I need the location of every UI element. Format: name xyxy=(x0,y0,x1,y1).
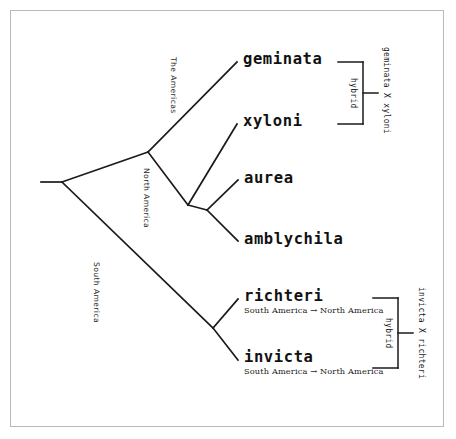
taxon-sublabel-richteri: South America → North America xyxy=(244,306,384,315)
hybrid-cross-label-invicta-richteri: invicta X richteri xyxy=(417,287,426,379)
taxon-label-aurea: aurea xyxy=(244,170,294,186)
hybrid-bracket-geminata-xyloni xyxy=(338,62,378,124)
taxon-sublabel-invicta: South America → North America xyxy=(244,367,384,376)
taxon-amblychila: amblychila xyxy=(244,231,343,247)
hybrid-bracket-label-invicta-richteri: hybrid xyxy=(384,318,393,349)
taxon-label-richteri: richteri xyxy=(244,288,384,304)
branch-geminata xyxy=(148,62,237,152)
branch-label-the-americas: The Americas xyxy=(169,57,178,114)
branch-richteri xyxy=(213,299,238,328)
taxon-label-invicta: invicta xyxy=(244,349,384,365)
branch-label-north-america: North America xyxy=(142,168,151,228)
branch-invicta xyxy=(213,328,238,360)
branch-aurea-amblychila-stem xyxy=(188,205,207,210)
taxon-label-geminata: geminata xyxy=(243,51,322,67)
taxon-aurea: aurea xyxy=(244,170,294,186)
taxon-label-amblychila: amblychila xyxy=(244,231,343,247)
taxon-invicta: invicta South America → North America xyxy=(244,349,384,376)
branch-north-america xyxy=(148,152,188,205)
branch-label-south-america: South America xyxy=(92,262,101,323)
taxon-label-xyloni: xyloni xyxy=(243,113,303,129)
branch-amblychila xyxy=(207,210,238,241)
branch-aurea xyxy=(207,180,238,210)
taxon-richteri: richteri South America → North America xyxy=(244,288,384,315)
hybrid-bracket-label-geminata-xyloni: hybrid xyxy=(349,78,358,109)
taxon-geminata: geminata xyxy=(243,51,322,67)
branch-xyloni xyxy=(188,124,237,205)
branch-the-americas xyxy=(62,152,148,182)
phylogenetic-tree-figure: geminata xyloni aurea amblychila richter… xyxy=(0,0,456,439)
branch-south-america xyxy=(62,182,213,328)
hybrid-cross-label-geminata-xyloni: geminata X xyloni xyxy=(382,47,391,134)
taxon-xyloni: xyloni xyxy=(243,113,303,129)
